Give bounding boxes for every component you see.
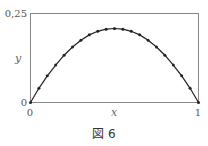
data-point bbox=[180, 74, 183, 77]
data-point bbox=[155, 45, 158, 48]
data-point bbox=[189, 87, 192, 90]
x-axis-label: x bbox=[111, 106, 118, 119]
data-point bbox=[147, 39, 150, 42]
data-point bbox=[63, 54, 66, 57]
data-point bbox=[138, 33, 141, 36]
data-point bbox=[130, 30, 133, 33]
x-tick-zero: 0 bbox=[27, 107, 33, 118]
data-point bbox=[79, 39, 82, 42]
data-point bbox=[105, 28, 108, 31]
data-point bbox=[71, 45, 74, 48]
x-tick-one: 1 bbox=[195, 107, 201, 118]
data-point bbox=[46, 74, 49, 77]
figure-caption: 図 6 bbox=[0, 124, 208, 141]
data-point bbox=[121, 28, 124, 31]
data-point bbox=[88, 33, 91, 36]
data-point bbox=[37, 87, 40, 90]
data-markers bbox=[29, 27, 200, 104]
data-point bbox=[113, 27, 116, 30]
plot-frame bbox=[31, 14, 199, 103]
y-axis-label: y bbox=[14, 52, 22, 65]
data-point bbox=[197, 101, 200, 104]
y-tick-top: 0,25 bbox=[5, 8, 27, 19]
data-point bbox=[54, 64, 57, 67]
data-point bbox=[96, 30, 99, 33]
data-point bbox=[163, 54, 166, 57]
data-point bbox=[172, 64, 175, 67]
data-point bbox=[29, 101, 32, 104]
